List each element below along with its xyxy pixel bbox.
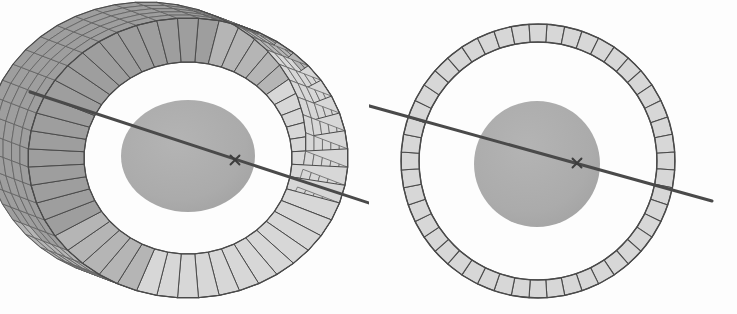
ring-segment [529,24,547,42]
ring-segment [657,152,675,170]
diagram-canvas [0,0,737,314]
ring-segment [401,169,421,188]
shaded-core-disc [121,100,255,212]
ring-segment [178,18,199,62]
mesh-cell [12,142,20,164]
ring-segment [546,278,565,298]
core-disc-left [121,100,255,212]
ring-segment [401,152,419,170]
mesh-cell [20,146,28,168]
mesh-cell [3,139,11,161]
ring-segment [655,134,675,153]
ring-segment [529,280,547,298]
figure-root: Segmented annular ring with central disc… [0,0,737,314]
ring-segment [511,24,530,44]
